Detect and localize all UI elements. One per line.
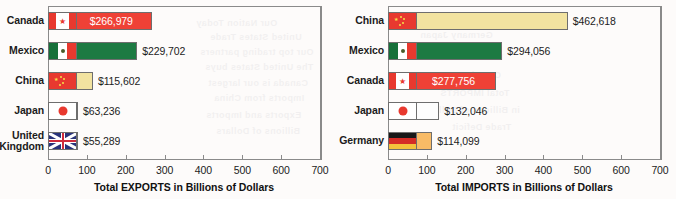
x-tick-600 xyxy=(621,155,622,160)
x-tick-200 xyxy=(466,155,467,160)
imports-chart: China★$462,618Mexico$294,056Canada★$277,… xyxy=(338,0,676,199)
japan-flag xyxy=(389,103,417,119)
x-axis-title: Total IMPORTS in Billions of Dollars xyxy=(388,181,660,193)
category-label-united-kingdom: United Kingdom xyxy=(0,130,44,152)
mexico-flag xyxy=(389,43,417,59)
category-label-canada: Canada xyxy=(347,75,384,86)
x-tick-label-100: 100 xyxy=(418,164,435,176)
category-label-japan: Japan xyxy=(14,105,44,116)
x-tick-300 xyxy=(505,155,506,160)
category-label-china: China xyxy=(355,15,384,26)
x-tick-label-300: 300 xyxy=(156,164,173,176)
x-tick-label-200: 200 xyxy=(117,164,134,176)
bar-value-japan: $63,236 xyxy=(83,105,120,117)
canada-flag: ★ xyxy=(49,13,77,29)
exports-chart: Canada★$266,979Mexico$229,702China★$115,… xyxy=(0,0,338,199)
x-tick-200 xyxy=(126,155,127,160)
x-axis-title: Total EXPORTS in Billions of Dollars xyxy=(48,181,320,193)
x-tick-label-0: 0 xyxy=(385,164,391,176)
germany-flag xyxy=(389,133,417,149)
canada-flag: ★ xyxy=(389,73,417,89)
bar-china[interactable]: ★ xyxy=(48,72,93,90)
x-tick-600 xyxy=(281,155,282,160)
bar-value-japan: $132,046 xyxy=(444,105,487,117)
x-tick-700 xyxy=(660,155,661,160)
x-tick-label-600: 600 xyxy=(273,164,290,176)
china-flag: ★ xyxy=(389,13,417,29)
x-tick-label-100: 100 xyxy=(78,164,95,176)
x-tick-label-200: 200 xyxy=(457,164,474,176)
x-tick-400 xyxy=(543,155,544,160)
x-tick-label-300: 300 xyxy=(496,164,513,176)
x-tick-label-400: 400 xyxy=(535,164,552,176)
bar-china[interactable]: ★ xyxy=(388,12,568,30)
x-tick-400 xyxy=(203,155,204,160)
x-tick-100 xyxy=(87,155,88,160)
x-tick-label-400: 400 xyxy=(195,164,212,176)
x-tick-label-500: 500 xyxy=(574,164,591,176)
japan-flag xyxy=(49,103,77,119)
x-tick-300 xyxy=(165,155,166,160)
china-flag: ★ xyxy=(49,73,77,89)
x-tick-label-700: 700 xyxy=(651,164,668,176)
bar-value-canada: $277,756 xyxy=(432,75,475,87)
category-label-mexico: Mexico xyxy=(349,45,384,56)
x-tick-label-700: 700 xyxy=(311,164,328,176)
united-kingdom-flag xyxy=(49,133,77,149)
bar-value-china: $462,618 xyxy=(573,15,616,27)
bar-japan[interactable] xyxy=(388,102,439,120)
bar-value-united-kingdom: $55,289 xyxy=(83,135,120,147)
x-tick-500 xyxy=(582,155,583,160)
x-tick-label-0: 0 xyxy=(45,164,51,176)
category-label-china: China xyxy=(15,75,44,86)
bar-value-mexico: $229,702 xyxy=(142,45,185,57)
category-label-mexico: Mexico xyxy=(9,45,44,56)
x-tick-0 xyxy=(388,155,389,160)
mexico-flag xyxy=(49,43,77,59)
bar-mexico[interactable] xyxy=(388,42,502,60)
category-label-germany: Germany xyxy=(339,135,384,146)
bar-value-mexico: $294,056 xyxy=(507,45,550,57)
x-tick-0 xyxy=(48,155,49,160)
bar-japan[interactable] xyxy=(48,102,78,120)
x-tick-500 xyxy=(242,155,243,160)
bar-mexico[interactable] xyxy=(48,42,137,60)
x-tick-700 xyxy=(320,155,321,160)
bar-united-kingdom[interactable] xyxy=(48,132,78,150)
category-label-japan: Japan xyxy=(354,105,384,116)
bar-germany[interactable] xyxy=(388,132,432,150)
bar-value-china: $115,602 xyxy=(98,75,140,87)
x-tick-label-500: 500 xyxy=(234,164,251,176)
x-tick-label-600: 600 xyxy=(613,164,630,176)
x-tick-100 xyxy=(427,155,428,160)
trade-charts-figure: Canada★$266,979Mexico$229,702China★$115,… xyxy=(0,0,676,199)
bar-value-canada: $266,979 xyxy=(90,15,133,27)
bar-value-germany: $114,099 xyxy=(437,135,479,147)
category-label-canada: Canada xyxy=(7,15,44,26)
